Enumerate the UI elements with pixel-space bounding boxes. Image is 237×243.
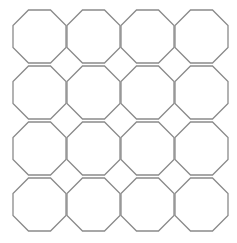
- octagon-r4-c3: [121, 178, 174, 231]
- octagon-r2-c3: [121, 66, 174, 119]
- octagon-r3-c1: [13, 122, 66, 175]
- octagon-r3-c3: [121, 122, 174, 175]
- octagon-r2-c4: [175, 66, 228, 119]
- octagon-r1-c1: [13, 10, 66, 63]
- octagon-r1-c2: [67, 10, 120, 63]
- octagon-r3-c2: [67, 122, 120, 175]
- octagon-r2-c2: [67, 66, 120, 119]
- octagon-r1-c4: [175, 10, 228, 63]
- octagon-grid-diagram: [0, 0, 237, 243]
- octagon-r4-c1: [13, 178, 66, 231]
- octagon-r3-c4: [175, 122, 228, 175]
- octagon-r4-c2: [67, 178, 120, 231]
- octagon-r4-c4: [175, 178, 228, 231]
- octagon-r2-c1: [13, 66, 66, 119]
- octagon-r1-c3: [121, 10, 174, 63]
